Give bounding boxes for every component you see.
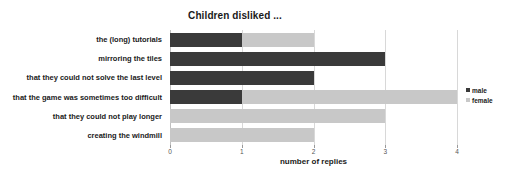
bar-row[interactable] [170, 30, 457, 49]
x-axis-tick-label: 2 [312, 148, 316, 155]
gridline-4 [457, 30, 458, 145]
bar-track [170, 128, 457, 142]
legend-item-male[interactable]: male [466, 86, 514, 94]
bar-segment-female[interactable] [170, 109, 385, 123]
y-axis-tick-label: mirroring the tiles [0, 49, 166, 68]
bar-segment-female[interactable] [170, 128, 314, 142]
bar-segment-male[interactable] [170, 52, 385, 66]
y-axis-tick-label: that they could not play longer [0, 107, 166, 126]
legend-swatch-icon [466, 88, 470, 92]
y-axis-tick-label: the (long) tutorials [0, 30, 166, 49]
bar-track [170, 109, 457, 123]
legend-label: male [472, 87, 487, 94]
y-axis-labels: the (long) tutorialsmirroring the tilest… [0, 30, 166, 145]
legend-swatch-icon [466, 98, 470, 102]
legend-item-female[interactable]: female [466, 96, 514, 104]
bar-track [170, 33, 457, 47]
x-axis-tick-label: 0 [168, 148, 172, 155]
x-axis-tick-label: 4 [455, 148, 459, 155]
bar-row[interactable] [170, 126, 457, 145]
x-axis-tick-label: 3 [383, 148, 387, 155]
bar-row[interactable] [170, 107, 457, 126]
legend-label: female [472, 97, 493, 104]
bar-segment-male[interactable] [170, 71, 314, 85]
y-axis-tick-label: that the game was sometimes too difficul… [0, 88, 166, 107]
bar-segment-female[interactable] [242, 90, 457, 104]
chart-title: Children disliked ... [0, 10, 470, 21]
bar-row[interactable] [170, 88, 457, 107]
bar-row[interactable] [170, 68, 457, 87]
bar-row[interactable] [170, 49, 457, 68]
bar-segment-female[interactable] [242, 33, 314, 47]
plot-area [170, 30, 457, 145]
chart-legend: malefemale [466, 86, 514, 106]
bar-track [170, 90, 457, 104]
y-axis-tick-label: creating the windmill [0, 126, 166, 145]
bar-track [170, 52, 457, 66]
x-axis-title: number of replies [170, 157, 457, 166]
bar-chart: Children disliked ... the (long) tutoria… [0, 0, 516, 175]
bar-segment-male[interactable] [170, 33, 242, 47]
bar-segment-male[interactable] [170, 90, 242, 104]
y-axis-tick-label: that they could not solve the last level [0, 68, 166, 87]
bar-track [170, 71, 457, 85]
x-axis-tick-label: 1 [240, 148, 244, 155]
